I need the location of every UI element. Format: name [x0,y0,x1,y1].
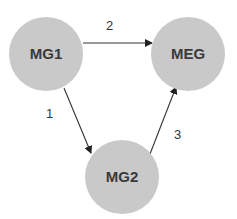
diagram-canvas: 1 2 3 MG1 MEG MG2 [0,0,237,219]
edge-label-3: 3 [174,127,181,142]
edge-mg1-mg2: 1 [46,88,91,153]
edge-mg1-meg: 2 [83,18,152,43]
node-label-meg: MEG [171,45,205,62]
edge-mg2-meg: 3 [150,87,181,154]
edge-label-1: 1 [46,106,53,121]
node-mg1: MG1 [9,17,83,91]
node-mg2: MG2 [85,140,159,214]
edge-label-2: 2 [106,18,113,33]
edge-arrow-1 [64,88,91,153]
node-label-mg2: MG2 [106,168,139,185]
edge-arrow-3 [150,87,176,154]
node-label-mg1: MG1 [30,45,63,62]
node-meg: MEG [151,17,225,91]
